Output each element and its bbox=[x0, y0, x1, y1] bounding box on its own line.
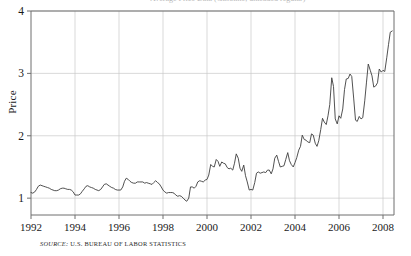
y-tick-label: 3 bbox=[18, 67, 24, 79]
y-tick-label: 1 bbox=[18, 192, 24, 204]
x-tick-label: 2006 bbox=[328, 221, 351, 233]
y-tick-label: 2 bbox=[18, 130, 24, 142]
y-axis-tick-labels: 1234 bbox=[18, 5, 24, 204]
source-agency: U.S. BUREAU OF LABOR STATISTICS bbox=[70, 240, 186, 247]
tick-marks bbox=[27, 11, 383, 219]
chart-figure: Average Price Data (Gasoline, unleaded r… bbox=[0, 0, 411, 256]
x-tick-label: 2008 bbox=[372, 221, 395, 233]
y-tick-label: 4 bbox=[18, 5, 24, 17]
price-line-chart: 199219941996199820002002200420062008 123… bbox=[0, 0, 411, 256]
source-prefix: SOURCE: bbox=[40, 240, 68, 247]
x-tick-label: 2002 bbox=[240, 221, 262, 233]
x-axis-tick-labels: 199219941996199820002002200420062008 bbox=[20, 221, 395, 233]
x-tick-label: 1998 bbox=[152, 221, 175, 233]
axis-lines bbox=[31, 11, 394, 215]
x-tick-label: 1994 bbox=[64, 221, 87, 233]
x-tick-label: 2000 bbox=[196, 221, 219, 233]
gridlines bbox=[31, 11, 394, 215]
source-note: SOURCE: U.S. BUREAU OF LABOR STATISTICS bbox=[40, 240, 186, 247]
x-tick-label: 1992 bbox=[20, 221, 42, 233]
price-series-line bbox=[31, 31, 392, 201]
x-tick-label: 2004 bbox=[284, 221, 307, 233]
x-tick-label: 1996 bbox=[108, 221, 131, 233]
y-axis-label: Price bbox=[6, 72, 18, 132]
